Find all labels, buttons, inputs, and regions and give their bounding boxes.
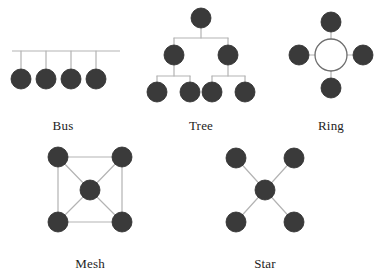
topology-label-tree: Tree: [189, 118, 213, 134]
node-mesh-br: [112, 212, 132, 232]
node-tree-b2: [218, 45, 238, 65]
node-ring-left: [289, 45, 309, 65]
node-star-bl: [226, 212, 246, 232]
topology-group-bus: [11, 51, 120, 89]
node-tree-l3: [202, 82, 222, 102]
topology-group-star: [226, 148, 304, 232]
node-star-tr: [284, 148, 304, 168]
node-bus-n1: [11, 69, 31, 89]
network-topologies-figure: BusTreeRingMeshStar: [0, 0, 385, 273]
node-ring-top: [321, 12, 341, 32]
node-bus-n4: [86, 69, 106, 89]
node-tree-b1: [164, 45, 184, 65]
node-mesh-center: [80, 180, 100, 200]
node-tree-l2: [180, 82, 200, 102]
topology-group-tree: [147, 8, 255, 102]
node-tree-l4: [235, 82, 255, 102]
node-mesh-tl: [48, 147, 68, 167]
topology-group-mesh: [48, 147, 132, 232]
topology-label-ring: Ring: [318, 118, 344, 134]
ring-hub-circle: [315, 39, 347, 71]
topology-label-bus: Bus: [53, 118, 74, 134]
topology-group-ring: [289, 12, 373, 98]
node-ring-right: [353, 45, 373, 65]
node-mesh-bl: [48, 212, 68, 232]
node-tree-root: [191, 8, 211, 28]
topology-canvas: [0, 0, 385, 273]
node-mesh-tr: [112, 147, 132, 167]
topology-label-star: Star: [254, 256, 276, 272]
node-bus-n2: [36, 69, 56, 89]
node-star-hub: [255, 180, 275, 200]
topology-label-mesh: Mesh: [75, 256, 105, 272]
node-star-tl: [226, 148, 246, 168]
node-ring-bottom: [321, 78, 341, 98]
node-star-br: [284, 212, 304, 232]
node-tree-l1: [147, 82, 167, 102]
node-bus-n3: [61, 69, 81, 89]
